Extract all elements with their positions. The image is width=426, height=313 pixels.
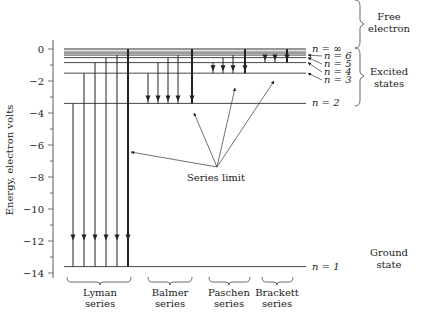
level-label: n = 1 <box>312 261 340 272</box>
arrowhead-icon <box>166 95 171 101</box>
arrowhead-icon <box>221 65 226 71</box>
level-label: n = 2 <box>312 97 340 108</box>
series-name: Balmer <box>152 287 189 298</box>
y-tick-label: 0 <box>38 44 44 55</box>
series-name-suffix: series <box>262 298 292 309</box>
arrowhead-icon <box>156 95 161 101</box>
series-name: Brackett <box>255 287 299 298</box>
arrowhead-icon <box>104 235 109 241</box>
energy-level-diagram: 0−2−4−6−8−10−12−14 Energy, electron volt… <box>0 0 426 313</box>
y-tick-label: −2 <box>29 76 44 87</box>
excited-states-brace <box>355 48 364 106</box>
series-brace <box>262 277 293 285</box>
excited-states-label-2: states <box>374 78 404 89</box>
transition-arrows <box>71 49 290 267</box>
y-axis-label: Energy, electron volts <box>4 105 15 216</box>
series-name-suffix: series <box>214 298 244 309</box>
series-limit-annotation: Series limit <box>131 81 274 183</box>
ground-state-label-2: state <box>376 259 401 270</box>
arrowhead-icon <box>231 65 236 71</box>
y-tick-label: −12 <box>23 236 44 247</box>
series-limit-label: Series limit <box>187 172 245 183</box>
excited-states-label-1: Excited <box>370 66 409 77</box>
series-name-suffix: series <box>85 298 115 309</box>
arrowhead-icon <box>93 235 98 241</box>
series-labels: LymanseriesBalmerseriesPaschenseriesBrac… <box>67 277 299 309</box>
level-labels: n = ∞n = 1n = 2n = 6n = 5n = 4n = 3 <box>308 43 352 272</box>
arrowhead-icon <box>82 235 87 241</box>
arrowhead-icon <box>115 235 120 241</box>
y-axis: 0−2−4−6−8−10−12−14 <box>23 40 53 279</box>
y-tick-label: −4 <box>29 108 44 119</box>
arrowhead-icon <box>146 95 151 101</box>
y-tick-label: −6 <box>29 140 44 151</box>
arrowhead-icon <box>190 95 195 101</box>
series-name: Paschen <box>208 287 250 298</box>
level-label: n = 3 <box>324 74 352 85</box>
arrowhead-icon <box>243 65 248 71</box>
y-tick-label: −10 <box>23 204 44 215</box>
free-electron-brace <box>355 0 364 48</box>
arrowhead-icon <box>176 95 181 101</box>
series-name-suffix: series <box>155 298 185 309</box>
energy-levels <box>64 49 306 267</box>
y-tick-label: −14 <box>23 268 44 279</box>
arrowhead-icon <box>126 235 131 241</box>
series-brace <box>209 277 250 285</box>
arrowhead-icon <box>71 235 76 241</box>
series-name: Lyman <box>83 287 118 298</box>
state-annotations: Free electron Excited states Ground stat… <box>355 0 411 270</box>
free-electron-label-1: Free <box>377 11 401 22</box>
ground-state-label-1: Ground <box>370 247 409 258</box>
series-brace <box>67 277 131 285</box>
arrowhead-icon <box>211 65 216 71</box>
y-tick-label: −8 <box>29 172 44 183</box>
series-brace <box>148 277 192 285</box>
free-electron-label-2: electron <box>368 23 410 34</box>
